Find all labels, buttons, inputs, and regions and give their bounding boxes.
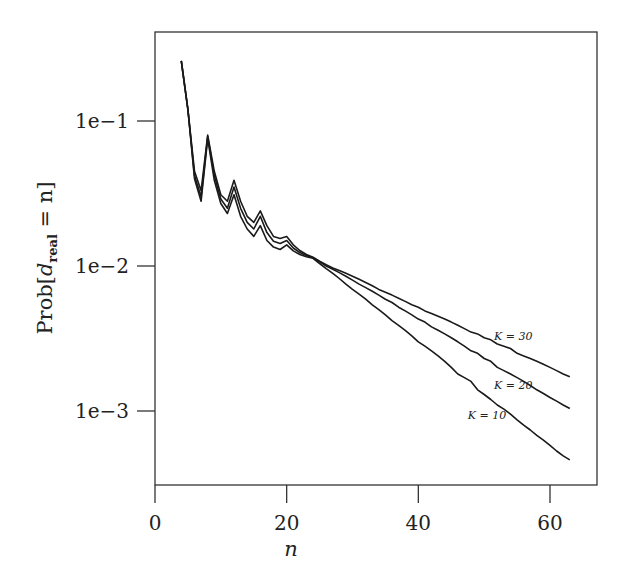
- y-tick-label: 1e−1: [75, 109, 129, 133]
- x-tick-label: 20: [274, 511, 299, 535]
- series-label: K = 30: [493, 330, 532, 343]
- x-tick-label: 60: [537, 511, 562, 535]
- x-axis-label: n: [284, 537, 298, 561]
- plot-frame: [155, 32, 597, 485]
- series-label: K = 20: [493, 379, 532, 392]
- y-axis: 1e−11e−21e−3: [75, 109, 155, 423]
- chart-canvas: 1e−11e−21e−3 0204060 K = 30K = 20K = 10 …: [0, 0, 625, 584]
- x-axis: 0204060: [149, 485, 563, 535]
- series-line: [181, 61, 570, 409]
- series-labels: K = 30K = 20K = 10: [467, 330, 533, 422]
- y-tick-label: 1e−2: [75, 254, 129, 278]
- y-tick-label: 1e−3: [75, 399, 129, 423]
- series-label: K = 10: [467, 409, 506, 422]
- x-tick-label: 0: [149, 511, 162, 535]
- y-axis-label: Prob[dreal = n]: [33, 181, 60, 334]
- series-lines: [181, 61, 570, 460]
- x-tick-label: 40: [406, 511, 431, 535]
- series-line: [181, 61, 570, 460]
